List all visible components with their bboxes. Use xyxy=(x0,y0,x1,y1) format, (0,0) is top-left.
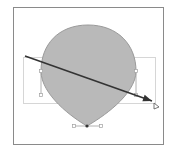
teardrop-shape[interactable] xyxy=(41,25,136,126)
left-handle-control-point[interactable] xyxy=(40,94,43,97)
arrow-endpoint-handle[interactable] xyxy=(154,103,159,109)
arrowhead-icon xyxy=(142,95,152,102)
bottom-anchor-point[interactable] xyxy=(85,124,88,127)
bottom-handle-anchor[interactable] xyxy=(73,125,76,128)
bottom-handle-control-point[interactable] xyxy=(100,125,103,128)
left-handle-anchor[interactable] xyxy=(40,70,43,73)
right-handle-anchor[interactable] xyxy=(135,70,138,73)
drawing-canvas[interactable] xyxy=(0,0,170,157)
